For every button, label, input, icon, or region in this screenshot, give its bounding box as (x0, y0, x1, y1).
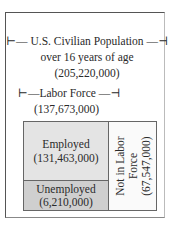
population-value: (205,220,000) (0, 66, 174, 80)
population-title-row: ⊢— U.S. Civilian Population —⊣ (0, 34, 174, 48)
employed-cell: Employed (131,463,000) (24, 122, 109, 181)
population-title: U.S. Civilian Population (30, 35, 143, 47)
unemployed-cell: Unemployed (6,210,000) (24, 181, 109, 210)
not-in-labor-force-cell: Not in Labor Force (67,547,000) (109, 122, 156, 210)
employed-value: (131,463,000) (33, 151, 98, 165)
nilf-value: (67,547,000) (139, 136, 152, 195)
bracket-left-icon: ⊢ (6, 35, 16, 47)
nilf-line1: Not in Labor (113, 136, 126, 195)
unemployed-label: Unemployed (36, 183, 95, 196)
bracket-right-icon: ⊣ (110, 87, 120, 99)
population-breakdown-box: Employed (131,463,000) Unemployed (6,210… (23, 121, 157, 211)
unemployed-value: (6,210,000) (39, 196, 93, 209)
labor-force-title: Labor Force (39, 87, 96, 99)
employed-label: Employed (42, 137, 89, 151)
labor-force-title-row: ⊢—Labor Force —⊣ (18, 86, 120, 100)
bracket-right-icon: ⊣ (158, 35, 168, 47)
nilf-line2: Force (126, 136, 139, 195)
bracket-left-icon: ⊢ (18, 87, 28, 99)
labor-force-value: (137,673,000) (34, 102, 99, 116)
population-subtitle: over 16 years of age (0, 50, 174, 64)
